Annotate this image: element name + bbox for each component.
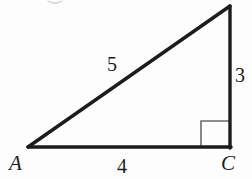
side-label-opposite-leg: 3: [235, 65, 245, 85]
geometry-figure: A C 5 3 4: [0, 0, 252, 179]
right-angle-marker: [201, 121, 229, 148]
side-label-hypotenuse: 5: [107, 54, 117, 74]
side-hypotenuse-line: [28, 6, 230, 147]
vertex-label-a: A: [9, 153, 22, 174]
side-label-adjacent-leg: 4: [117, 156, 127, 176]
triangle-drawing: [0, 0, 252, 179]
vertex-label-c: C: [221, 153, 235, 174]
